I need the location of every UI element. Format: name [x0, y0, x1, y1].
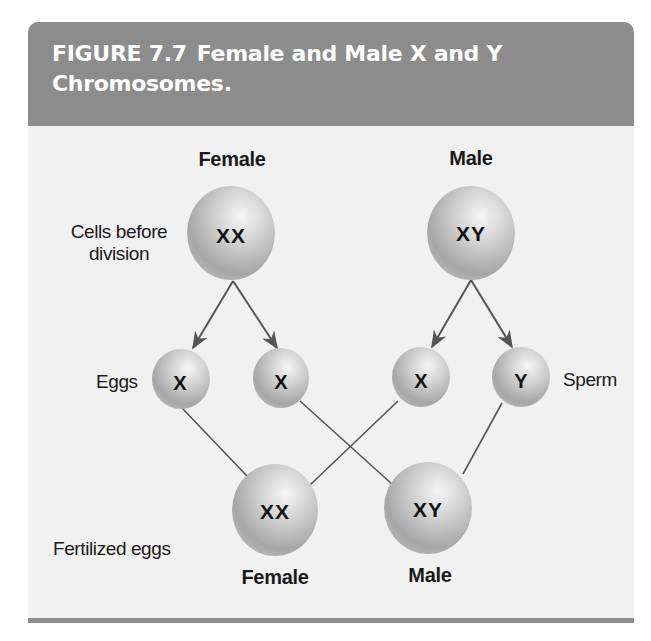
fertilized-eggs-label: Fertilized eggs [53, 538, 171, 560]
sperm-y-chromosome: Y [514, 370, 527, 393]
division-arrows [193, 280, 512, 348]
sperm-label: Sperm [563, 369, 617, 391]
arrow-female-to-egg2 [233, 281, 277, 348]
line-egg1-to-female-offspring [182, 408, 247, 476]
male-parent-label: Male [449, 147, 492, 170]
sperm-x-chromosome: X [414, 370, 427, 393]
female-parent-genotype: XX [216, 224, 246, 248]
female-parent-label: Female [198, 148, 265, 171]
eggs-label: Eggs [96, 371, 138, 393]
arrow-male-to-sperm-x [432, 280, 471, 347]
arrow-male-to-sperm-y [471, 280, 512, 347]
line-sperm-y-to-male-offspring [463, 403, 502, 474]
arrow-female-to-egg1 [193, 281, 233, 348]
line-sperm-x-to-female-offspring [310, 401, 398, 485]
male-parent-genotype: XY [456, 222, 486, 246]
female-offspring-label: Female [241, 566, 308, 589]
egg2-chromosome: X [274, 371, 287, 394]
cells-before-line1: Cells before [71, 221, 168, 242]
line-egg2-to-male-offspring [300, 401, 393, 485]
male-offspring-genotype: XY [413, 498, 443, 522]
female-offspring-genotype: XX [260, 500, 290, 524]
male-offspring-label: Male [408, 564, 451, 587]
egg1-chromosome: X [173, 372, 186, 395]
cells-before-division-label: Cells before division [71, 221, 168, 265]
cells-before-line2: division [89, 243, 149, 264]
